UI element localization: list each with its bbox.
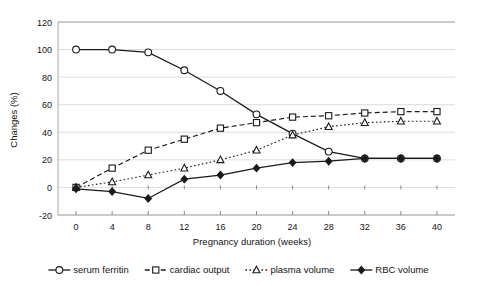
legend-item-serum-ferritin[interactable]: serum ferritin xyxy=(48,264,128,275)
y-axis-title: Changes (%) xyxy=(8,92,19,147)
marker-open-square xyxy=(434,109,440,115)
legend-label: RBC volume xyxy=(375,264,428,275)
xtick-label-4: 4 xyxy=(110,222,115,232)
legend-item-RBC-volume[interactable]: RBC volume xyxy=(350,264,428,275)
ytick-label-20: 20 xyxy=(42,155,52,165)
ytick-label--20: -20 xyxy=(39,211,52,221)
marker-open-square xyxy=(109,165,115,171)
ytick-label-40: 40 xyxy=(42,128,52,138)
ytick-label-80: 80 xyxy=(42,73,52,83)
marker-open-square xyxy=(362,110,368,116)
marker-open-triangle xyxy=(397,117,404,124)
y-axis-tick-labels: -20020406080100120 xyxy=(37,18,52,221)
marker-open-triangle xyxy=(109,178,116,185)
marker-open-circle xyxy=(145,49,152,56)
marker-open-circle xyxy=(56,267,63,274)
marker-open-square xyxy=(181,136,187,142)
marker-open-circle xyxy=(253,111,260,118)
marker-filled-diamond xyxy=(181,176,187,183)
marker-filled-diamond xyxy=(253,165,259,172)
marker-open-triangle xyxy=(325,123,332,130)
ytick-label-60: 60 xyxy=(42,100,52,110)
marker-filled-diamond xyxy=(109,188,115,195)
xtick-label-28: 28 xyxy=(324,222,334,232)
marker-open-circle xyxy=(325,148,332,155)
legend-item-cardiac-output[interactable]: cardiac output xyxy=(145,264,230,275)
marker-open-circle xyxy=(73,46,80,53)
legend-item-plasma-volume[interactable]: plasma volume xyxy=(245,264,334,275)
chart-legend: serum ferritincardiac outputplasma volum… xyxy=(48,264,428,275)
x-axis-tickmarks xyxy=(76,185,437,215)
xtick-label-24: 24 xyxy=(288,222,298,232)
x-axis-tick-labels: 0481216202428323640 xyxy=(74,222,442,232)
marker-open-square xyxy=(153,267,159,273)
xtick-label-8: 8 xyxy=(146,222,151,232)
series-serum-ferritin xyxy=(73,46,441,162)
ytick-label-100: 100 xyxy=(37,45,52,55)
marker-open-circle xyxy=(109,46,116,53)
marker-filled-diamond xyxy=(358,266,364,273)
marker-open-square xyxy=(217,125,223,131)
series-line-plasma-volume xyxy=(76,121,437,187)
xtick-label-0: 0 xyxy=(74,222,79,232)
ytick-label-0: 0 xyxy=(47,183,52,193)
data-series-group xyxy=(73,46,441,202)
marker-open-square xyxy=(289,114,295,120)
series-line-serum-ferritin xyxy=(76,50,437,159)
marker-filled-diamond xyxy=(325,158,331,165)
chart-figure: -20020406080100120 0481216202428323640 C… xyxy=(0,0,477,286)
marker-open-square xyxy=(145,147,151,153)
xtick-label-12: 12 xyxy=(179,222,189,232)
x-axis-title: Pregnancy duration (weeks) xyxy=(193,236,311,247)
marker-open-triangle xyxy=(361,119,368,126)
marker-open-square xyxy=(398,109,404,115)
xtick-label-32: 32 xyxy=(360,222,370,232)
legend-label: serum ferritin xyxy=(73,264,128,275)
legend-label: cardiac output xyxy=(170,264,230,275)
marker-open-circle xyxy=(181,67,188,74)
marker-open-circle xyxy=(217,88,224,95)
legend-label: plasma volume xyxy=(270,264,334,275)
marker-filled-diamond xyxy=(217,171,223,178)
xtick-label-16: 16 xyxy=(215,222,225,232)
marker-open-triangle xyxy=(433,117,440,124)
series-plasma-volume xyxy=(73,117,441,190)
xtick-label-40: 40 xyxy=(432,222,442,232)
marker-filled-diamond xyxy=(145,195,151,202)
xtick-label-20: 20 xyxy=(251,222,261,232)
marker-open-square xyxy=(253,120,259,126)
ytick-label-120: 120 xyxy=(37,18,52,28)
marker-open-triangle xyxy=(253,146,260,153)
line-chart: -20020406080100120 0481216202428323640 C… xyxy=(0,0,477,286)
marker-open-triangle xyxy=(145,171,152,178)
marker-open-square xyxy=(326,113,332,119)
xtick-label-36: 36 xyxy=(396,222,406,232)
